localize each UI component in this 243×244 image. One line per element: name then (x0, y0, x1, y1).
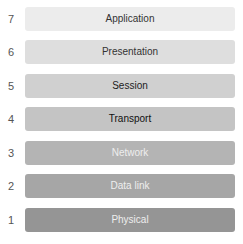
layer-row-4: 4 Transport (0, 107, 243, 131)
layer-number: 7 (8, 7, 20, 31)
layer-number: 3 (8, 141, 20, 165)
layer-row-5: 5 Session (0, 74, 243, 98)
layer-bar-presentation: Presentation (25, 40, 235, 64)
layer-row-3: 3 Network (0, 141, 243, 165)
layer-bar-network: Network (25, 141, 235, 165)
layer-bar-data-link: Data link (25, 174, 235, 198)
layer-row-2: 2 Data link (0, 174, 243, 198)
layer-bar-application: Application (25, 7, 235, 31)
layer-number: 4 (8, 107, 20, 131)
layer-number: 1 (8, 208, 20, 232)
layer-number: 6 (8, 40, 20, 64)
layer-row-7: 7 Application (0, 7, 243, 31)
layer-row-1: 1 Physical (0, 208, 243, 232)
layer-number: 2 (8, 174, 20, 198)
layer-number: 5 (8, 74, 20, 98)
layer-bar-session: Session (25, 74, 235, 98)
layer-bar-transport: Transport (25, 107, 235, 131)
layer-row-6: 6 Presentation (0, 40, 243, 64)
layer-bar-physical: Physical (25, 208, 235, 232)
